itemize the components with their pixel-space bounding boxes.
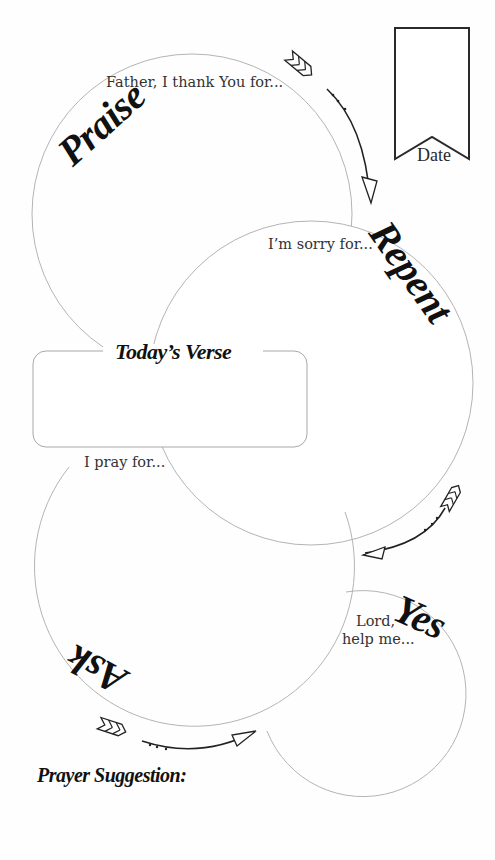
date-label: Date: [417, 145, 451, 166]
date-banner[interactable]: [395, 28, 469, 159]
prayer-worksheet-page: Praise Repent Ask Yes Father, I thank Yo…: [0, 0, 495, 860]
praise-arrow-icon: [285, 51, 377, 203]
yes-prompt-line1: Lord,: [356, 613, 395, 630]
yes-prompt-line2: help me...: [342, 631, 415, 648]
verse-heading: Today’s Verse: [115, 339, 231, 365]
praise-prompt: Father, I thank You for...: [106, 74, 283, 91]
ask-prompt: I pray for...: [84, 454, 165, 471]
prayer-suggestion-heading: Prayer Suggestion:: [37, 764, 186, 787]
ask-arrow-icon: [97, 717, 256, 750]
repent-prompt: I’m sorry for...: [268, 236, 373, 253]
